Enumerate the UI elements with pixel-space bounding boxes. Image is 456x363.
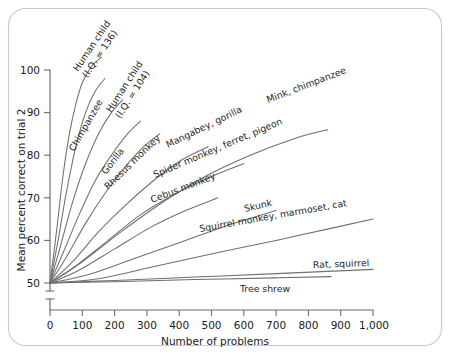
x-tick-label-800: 800: [298, 319, 318, 331]
x-tick-label-0: 0: [47, 319, 54, 331]
x-tick-label-700: 700: [266, 319, 286, 331]
y-tick-label-70: 70: [27, 192, 40, 204]
x-tick-label-600: 600: [234, 319, 254, 331]
x-axis-title: Number of problems: [161, 335, 269, 347]
curve-label-tree-shrew-line1: Tree shrew: [239, 283, 290, 294]
y-tick-label-80: 80: [27, 149, 40, 161]
y-tick-label-60: 60: [27, 234, 40, 246]
x-tick-label-100: 100: [72, 319, 92, 331]
x-tick-label-500: 500: [201, 319, 221, 331]
curve-label-rat-squirrel: Rat, squirrel: [313, 257, 370, 270]
x-tick-label-1000: 1,000: [359, 319, 389, 331]
y-tick-label-50: 50: [27, 277, 40, 289]
x-tick-label-900: 900: [331, 319, 351, 331]
x-tick-label-300: 300: [137, 319, 157, 331]
curve-label-rat-squirrel-line1: Rat, squirrel: [313, 257, 370, 270]
chart-svg: 50 60 70 80 90 100 0 100 200 300: [0, 0, 456, 363]
y-tick-label-90: 90: [27, 106, 40, 118]
x-tick-label-200: 200: [105, 319, 125, 331]
figure-frame: [9, 9, 442, 346]
chart-figure: 50 60 70 80 90 100 0 100 200 300: [0, 0, 456, 363]
curve-label-tree-shrew: Tree shrew: [239, 283, 290, 294]
y-axis-title: Mean percent correct on trial 2: [15, 109, 27, 272]
x-tick-label-400: 400: [169, 319, 189, 331]
y-tick-label-100: 100: [20, 64, 40, 76]
